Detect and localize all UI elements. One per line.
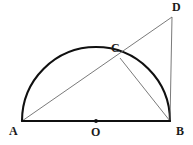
vertex-label-d: D bbox=[172, 1, 181, 13]
vertex-label-a: A bbox=[9, 125, 18, 137]
vertex-label-c: C bbox=[111, 42, 120, 54]
vertex-label-o: O bbox=[91, 126, 100, 138]
center-point-dot bbox=[94, 119, 98, 123]
geometry-canvas bbox=[0, 0, 193, 145]
vertex-label-b: B bbox=[176, 125, 184, 137]
line-segment-bd bbox=[170, 17, 172, 121]
geometry-figure: A B C D O bbox=[0, 0, 193, 145]
semicircle-arc bbox=[22, 47, 170, 121]
